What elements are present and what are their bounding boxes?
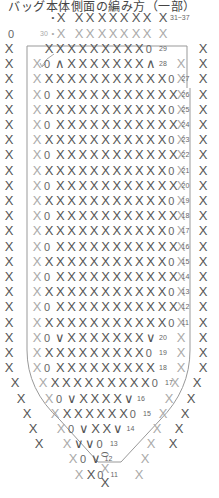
round-16: XXXX0XXXXXXXXXXX16: [0, 240, 219, 254]
round-24: XXXX0XXXXXXXXXXX24: [0, 118, 219, 132]
round-16: XXXX0∨XXXX∨16: [0, 392, 219, 406]
round-28: XXXX0∧XXXXXXX∧28: [0, 57, 219, 71]
round-18: XXXX0XXXXXXXXX18: [0, 361, 219, 375]
round-19: XXXXXXXXXXXXXXX019: [0, 194, 219, 208]
round-23: XXXXXXXXXXXXXXX023: [0, 133, 219, 147]
round-15: XXXXXXXXXX015: [0, 407, 219, 421]
round-15: XXXXXXXXXXXXXXX015: [0, 255, 219, 269]
chain-icon: 0: [8, 27, 14, 41]
foundation: ⬭: [0, 448, 219, 462]
round-22: XXXX0XXXXXXXXXXX22: [0, 148, 219, 162]
round-13: XXXXXXXXXXXXXXX013: [0, 285, 219, 299]
round-20: XXXX0∨XXXXXXX∨20: [0, 331, 219, 345]
foundation-sc-2: X: [0, 476, 219, 490]
round-27: XXXXXXXXXXXXXXX027: [0, 72, 219, 86]
round-12: XXXX0XXXXXXXXXXX12: [0, 300, 219, 314]
round-17: XXXXXXXXXXXXX017: [0, 376, 219, 390]
round-17: XXXXXXXXXXXXXXX017: [0, 224, 219, 238]
round-25: XXXXXXXXXXXXXXX025: [0, 103, 219, 117]
round-11: XXXXXXXXXXXXXXX011: [0, 316, 219, 330]
round-31-37: • X XXXXXXX X 31~37: [0, 11, 219, 25]
round-19: XXXXXXXXXXXXX019: [0, 346, 219, 360]
round-29: XXXXXXXXXXX029: [0, 42, 219, 56]
round-21: XXXXXXXXXXXXXXX021: [0, 164, 219, 178]
round-26: XXXX0XXXXXXXXXXX26: [0, 88, 219, 102]
round-20: XXXX0XXXXXXXXXXX20: [0, 179, 219, 193]
round-14: XXXX0∨XX∨14: [0, 422, 219, 436]
round-18: XXXX0XXXXXXXXXXX18: [0, 209, 219, 223]
round-30: 0 30 • X XXXXXXX X: [0, 27, 219, 41]
foundation-sc: X: [0, 462, 219, 476]
round-14: XXXX0XXXXXXXXXXX14: [0, 270, 219, 284]
round-label: 31~37: [170, 11, 190, 25]
